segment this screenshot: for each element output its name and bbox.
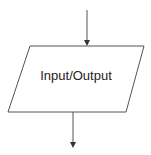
incoming-arrow	[84, 10, 90, 46]
shape-label: Input/Output	[20, 68, 132, 83]
outgoing-arrow	[70, 112, 76, 148]
